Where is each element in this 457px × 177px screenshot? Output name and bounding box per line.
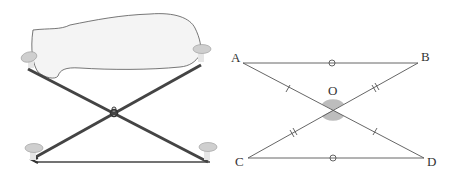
angle-shade-top [322, 99, 344, 110]
segment-BC [248, 63, 418, 158]
seat-cloth [32, 14, 201, 78]
tick-OC-2 [293, 128, 297, 135]
diagram-canvas [0, 0, 457, 177]
label-C: C [235, 155, 244, 168]
angle-shade-bottom [322, 110, 344, 121]
tick-OC-1 [290, 130, 294, 137]
folding-stool [20, 14, 217, 163]
label-A: A [231, 51, 240, 64]
cap-bottom-left [25, 144, 43, 161]
label-O: O [328, 84, 337, 97]
label-D: D [427, 155, 436, 168]
geometry-figure [243, 60, 424, 161]
leg-left-to-right [28, 69, 208, 162]
label-B: B [421, 50, 430, 63]
